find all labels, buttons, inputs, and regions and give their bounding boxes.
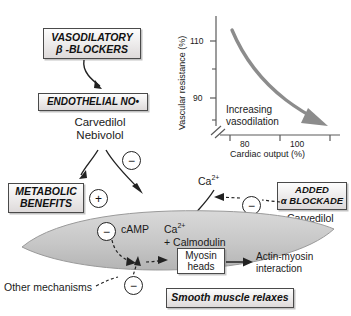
calcium-influx-base: Ca — [198, 175, 211, 187]
arrow-myosin-to-actin — [226, 256, 256, 268]
minus-glyph-other: − — [130, 280, 137, 292]
actin-myosin-line1: Actin-myosin — [256, 251, 313, 263]
endothelial-no-box: ENDOTHELIAL NO• — [38, 93, 148, 111]
actin-myosin-line2: interaction — [256, 263, 313, 275]
myosin-heads-line2: heads — [187, 261, 214, 272]
actin-myosin-label: Actin-myosin interaction — [256, 251, 313, 274]
vasodilatory-blockers-line2: β -BLOCKERS — [56, 44, 128, 56]
drug-nebivolol: Nebivolol — [63, 129, 137, 142]
minus-glyph: − — [128, 155, 135, 167]
calcium-influx-label: Ca2+ — [198, 174, 219, 187]
other-mechanisms-label: Other mechanisms — [4, 281, 92, 293]
minus-sign-drugs-branch: − — [122, 151, 141, 170]
resistance-vs-output-chart: Vascular resistance (%) 110 90 80 100 Ca… — [168, 8, 348, 160]
vasodilatory-blockers-box: VASODILATORY β -BLOCKERS — [43, 28, 141, 59]
smooth-muscle-relaxes-box: Smooth muscle relaxes — [166, 288, 294, 308]
chart-plot-area — [168, 8, 348, 160]
drug-list: Carvedilol Nebivolol — [63, 116, 137, 142]
minus-sign-other-mechanisms: − — [124, 276, 143, 295]
calcium-influx-sup: 2+ — [211, 174, 219, 181]
camp-label: cAMP — [121, 223, 149, 235]
drug-carvedilol: Carvedilol — [63, 116, 137, 129]
myosin-heads-box: Myosin heads — [177, 248, 225, 274]
vasodilatory-blockers-line1: VASODILATORY — [51, 32, 132, 44]
figure-canvas: VASODILATORY β -BLOCKERS ENDOTHELIAL NO•… — [0, 0, 351, 316]
endothelial-no-label: ENDOTHELIAL NO• — [47, 96, 139, 107]
calcium-sup: 2+ — [177, 222, 185, 229]
calcium-base: Ca — [164, 223, 177, 235]
smooth-muscle-relaxes-label: Smooth muscle relaxes — [171, 292, 288, 304]
arrow-blockers-to-no — [78, 58, 118, 94]
myosin-heads-line1: Myosin — [185, 250, 217, 261]
